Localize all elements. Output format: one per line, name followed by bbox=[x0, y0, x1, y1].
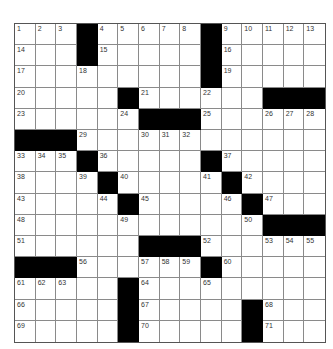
grid-cell[interactable] bbox=[222, 215, 243, 236]
grid-cell[interactable] bbox=[201, 321, 222, 342]
grid-cell[interactable]: 5 bbox=[118, 24, 139, 45]
grid-cell[interactable]: 63 bbox=[56, 278, 77, 299]
grid-cell[interactable] bbox=[304, 257, 325, 278]
grid-cell[interactable] bbox=[242, 257, 263, 278]
grid-cell[interactable] bbox=[56, 194, 77, 215]
grid-cell[interactable] bbox=[304, 321, 325, 342]
grid-cell[interactable]: 71 bbox=[263, 321, 284, 342]
grid-cell[interactable] bbox=[56, 236, 77, 257]
grid-cell[interactable] bbox=[304, 45, 325, 66]
grid-cell[interactable]: 12 bbox=[284, 24, 305, 45]
grid-cell[interactable]: 3 bbox=[56, 24, 77, 45]
grid-cell[interactable] bbox=[160, 151, 181, 172]
grid-cell[interactable]: 1 bbox=[15, 24, 36, 45]
grid-cell[interactable] bbox=[284, 151, 305, 172]
grid-cell[interactable] bbox=[180, 45, 201, 66]
grid-cell[interactable]: 57 bbox=[139, 257, 160, 278]
grid-cell[interactable] bbox=[242, 151, 263, 172]
grid-cell[interactable] bbox=[160, 278, 181, 299]
grid-cell[interactable] bbox=[98, 88, 119, 109]
grid-cell[interactable] bbox=[36, 45, 57, 66]
grid-cell[interactable] bbox=[77, 236, 98, 257]
grid-cell[interactable]: 35 bbox=[56, 151, 77, 172]
grid-cell[interactable] bbox=[160, 88, 181, 109]
grid-cell[interactable] bbox=[304, 66, 325, 87]
grid-cell[interactable] bbox=[160, 66, 181, 87]
grid-cell[interactable]: 33 bbox=[15, 151, 36, 172]
grid-cell[interactable]: 14 bbox=[15, 45, 36, 66]
grid-cell[interactable]: 39 bbox=[77, 172, 98, 193]
grid-cell[interactable] bbox=[36, 215, 57, 236]
grid-cell[interactable] bbox=[242, 66, 263, 87]
grid-cell[interactable]: 21 bbox=[139, 88, 160, 109]
grid-cell[interactable]: 4 bbox=[98, 24, 119, 45]
grid-cell[interactable] bbox=[284, 300, 305, 321]
grid-cell[interactable] bbox=[304, 151, 325, 172]
grid-cell[interactable]: 7 bbox=[160, 24, 181, 45]
grid-cell[interactable]: 32 bbox=[180, 130, 201, 151]
grid-cell[interactable] bbox=[36, 109, 57, 130]
grid-cell[interactable]: 69 bbox=[15, 321, 36, 342]
grid-cell[interactable] bbox=[180, 151, 201, 172]
grid-cell[interactable] bbox=[242, 109, 263, 130]
grid-cell[interactable] bbox=[263, 172, 284, 193]
grid-cell[interactable] bbox=[77, 215, 98, 236]
grid-cell[interactable]: 55 bbox=[304, 236, 325, 257]
grid-cell[interactable]: 49 bbox=[118, 215, 139, 236]
grid-cell[interactable] bbox=[263, 66, 284, 87]
grid-cell[interactable] bbox=[304, 300, 325, 321]
grid-cell[interactable] bbox=[284, 172, 305, 193]
grid-cell[interactable] bbox=[242, 88, 263, 109]
grid-cell[interactable] bbox=[77, 194, 98, 215]
grid-cell[interactable]: 52 bbox=[201, 236, 222, 257]
grid-cell[interactable] bbox=[304, 278, 325, 299]
grid-cell[interactable] bbox=[56, 88, 77, 109]
grid-cell[interactable] bbox=[118, 66, 139, 87]
grid-cell[interactable] bbox=[222, 300, 243, 321]
grid-cell[interactable] bbox=[284, 45, 305, 66]
grid-cell[interactable] bbox=[284, 321, 305, 342]
grid-cell[interactable]: 41 bbox=[201, 172, 222, 193]
grid-cell[interactable]: 47 bbox=[263, 194, 284, 215]
grid-cell[interactable]: 53 bbox=[263, 236, 284, 257]
grid-cell[interactable]: 20 bbox=[15, 88, 36, 109]
grid-cell[interactable]: 61 bbox=[15, 278, 36, 299]
grid-cell[interactable]: 8 bbox=[180, 24, 201, 45]
grid-cell[interactable]: 13 bbox=[304, 24, 325, 45]
grid-cell[interactable] bbox=[201, 300, 222, 321]
grid-cell[interactable] bbox=[180, 278, 201, 299]
grid-cell[interactable] bbox=[77, 109, 98, 130]
grid-cell[interactable] bbox=[304, 172, 325, 193]
grid-cell[interactable] bbox=[284, 66, 305, 87]
grid-cell[interactable] bbox=[284, 130, 305, 151]
grid-cell[interactable]: 68 bbox=[263, 300, 284, 321]
grid-cell[interactable] bbox=[222, 88, 243, 109]
grid-cell[interactable]: 9 bbox=[222, 24, 243, 45]
grid-cell[interactable] bbox=[98, 109, 119, 130]
grid-cell[interactable] bbox=[222, 109, 243, 130]
grid-cell[interactable]: 58 bbox=[160, 257, 181, 278]
grid-cell[interactable] bbox=[98, 300, 119, 321]
grid-cell[interactable] bbox=[36, 66, 57, 87]
grid-cell[interactable] bbox=[36, 194, 57, 215]
grid-cell[interactable]: 17 bbox=[15, 66, 36, 87]
grid-cell[interactable]: 18 bbox=[77, 66, 98, 87]
grid-cell[interactable] bbox=[118, 236, 139, 257]
grid-cell[interactable] bbox=[77, 278, 98, 299]
grid-cell[interactable] bbox=[201, 215, 222, 236]
grid-cell[interactable] bbox=[160, 300, 181, 321]
grid-cell[interactable]: 11 bbox=[263, 24, 284, 45]
grid-cell[interactable]: 27 bbox=[284, 109, 305, 130]
grid-cell[interactable]: 46 bbox=[222, 194, 243, 215]
grid-cell[interactable]: 19 bbox=[222, 66, 243, 87]
grid-cell[interactable]: 16 bbox=[222, 45, 243, 66]
grid-cell[interactable]: 56 bbox=[77, 257, 98, 278]
grid-cell[interactable] bbox=[118, 257, 139, 278]
grid-cell[interactable] bbox=[160, 321, 181, 342]
grid-cell[interactable] bbox=[118, 151, 139, 172]
grid-cell[interactable] bbox=[118, 130, 139, 151]
grid-cell[interactable]: 6 bbox=[139, 24, 160, 45]
grid-cell[interactable] bbox=[56, 66, 77, 87]
grid-cell[interactable] bbox=[160, 172, 181, 193]
grid-cell[interactable]: 59 bbox=[180, 257, 201, 278]
